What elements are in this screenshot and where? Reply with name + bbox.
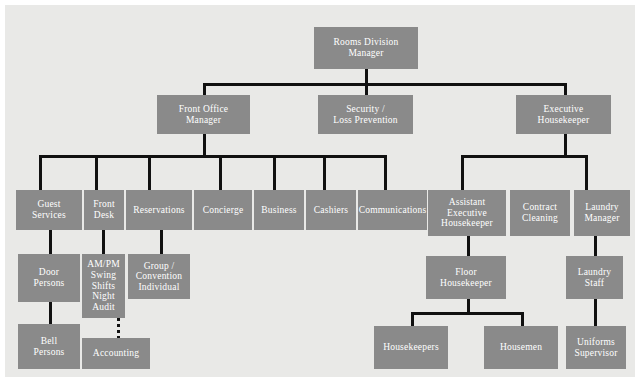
connector-to-business xyxy=(273,155,276,190)
node-business[interactable]: Business xyxy=(254,190,304,230)
node-label-line: Individual xyxy=(136,282,182,293)
node-laundry-staff[interactable]: Laundry Staff xyxy=(566,256,623,299)
node-label-line: AM/PM xyxy=(87,259,120,270)
connector-to-reservations xyxy=(148,155,151,190)
node-label-line: Night xyxy=(87,291,120,302)
connector-floor-hk-bus xyxy=(411,312,524,315)
node-rooms-division-manager[interactable]: Rooms Division Manager xyxy=(314,27,418,69)
node-contract-cleaning[interactable]: Contract Cleaning xyxy=(510,190,570,236)
connector-reservations-down xyxy=(160,230,163,254)
node-label-line: Housekeeper xyxy=(440,278,492,289)
connector-asst-exec-hk-down xyxy=(467,236,470,256)
node-label-line: Audit xyxy=(87,302,120,313)
node-label-line: Guest xyxy=(32,199,66,210)
node-label-line: Convention xyxy=(136,271,182,282)
connector-to-housemen xyxy=(521,312,524,326)
node-label-line: Supervisor xyxy=(574,348,617,359)
node-label-line: Swing xyxy=(87,270,120,281)
node-label-line: Loss Prevention xyxy=(333,115,397,126)
connector-exec-hk-bus xyxy=(461,155,588,158)
node-label-line: Housekeepers xyxy=(383,342,439,353)
node-label-line: Contract xyxy=(522,202,558,213)
connector-fom-down xyxy=(203,133,206,157)
node-label-line: Rooms Division xyxy=(334,37,399,48)
node-label-line: Concierge xyxy=(203,205,244,216)
node-label-line: Cashiers xyxy=(314,205,348,216)
node-label-line: Assistant xyxy=(441,197,493,208)
node-am-pm-swing-shifts-night-audit[interactable]: AM/PM Swing Shifts Night Audit xyxy=(82,254,125,318)
node-bell-persons[interactable]: Bell Persons xyxy=(18,324,80,369)
node-label-line: Executive xyxy=(538,104,590,115)
connector-guest-services-down xyxy=(49,230,52,254)
connector-laundry-staff-down xyxy=(594,299,597,326)
node-label-line: Manager xyxy=(584,213,619,224)
node-executive-housekeeper[interactable]: Executive Housekeeper xyxy=(516,95,611,134)
node-label-line: Uniforms xyxy=(574,337,617,348)
node-label-line: Business xyxy=(261,205,296,216)
node-label-line: Communications xyxy=(359,205,427,216)
node-label-line: Shifts xyxy=(87,281,120,292)
node-label-line: Laundry xyxy=(584,202,619,213)
connector-to-front-desk xyxy=(95,155,98,190)
node-cashiers[interactable]: Cashiers xyxy=(306,190,356,230)
node-label-line: Executive xyxy=(441,208,493,219)
node-guest-services[interactable]: Guest Services xyxy=(16,190,82,230)
connector-exec-hk-down xyxy=(564,133,567,157)
connector-to-laundry-manager xyxy=(585,155,588,190)
node-label-line: Services xyxy=(32,210,66,221)
node-label-line: Cleaning xyxy=(522,213,558,224)
node-label-line: Housemen xyxy=(500,342,542,353)
connector-front-desk-down xyxy=(102,230,105,254)
node-label-line: Front xyxy=(93,199,115,210)
org-chart-panel: Rooms Division Manager Front Office Mana… xyxy=(5,5,635,377)
connector-to-concierge xyxy=(219,155,222,190)
connector-to-guest-services xyxy=(39,155,42,190)
connector-level1-bus xyxy=(203,83,567,86)
connector-to-communications xyxy=(384,155,387,190)
node-front-office-manager[interactable]: Front Office Manager xyxy=(157,95,250,134)
node-label-line: Desk xyxy=(93,210,115,221)
node-assistant-executive-housekeeper[interactable]: Assistant Executive Housekeeper xyxy=(428,190,506,236)
node-label-line: Persons xyxy=(34,347,65,358)
connector-front-office-bus xyxy=(39,155,387,158)
node-floor-housekeeper[interactable]: Floor Housekeeper xyxy=(426,256,506,299)
node-label-line: Persons xyxy=(34,278,65,289)
org-chart-canvas: Rooms Division Manager Front Office Mana… xyxy=(0,0,641,386)
node-label-line: Group / xyxy=(136,261,182,272)
node-reservations[interactable]: Reservations xyxy=(126,190,192,230)
node-label-line: Door xyxy=(34,267,65,278)
node-label-line: Housekeeper xyxy=(538,115,590,126)
node-door-persons[interactable]: Door Persons xyxy=(18,254,80,302)
connector-to-housekeepers xyxy=(411,312,414,326)
node-housemen[interactable]: Housemen xyxy=(484,326,558,369)
connector-night-audit-accounting-dotted xyxy=(117,318,120,338)
node-laundry-manager[interactable]: Laundry Manager xyxy=(574,190,630,236)
connector-to-cashiers xyxy=(323,155,326,190)
node-label-line: Housekeeper xyxy=(441,218,493,229)
node-communications[interactable]: Communications xyxy=(358,190,427,230)
node-label-line: Security / xyxy=(333,104,397,115)
node-front-desk[interactable]: Front Desk xyxy=(84,190,124,230)
node-label-line: Manager xyxy=(334,48,399,59)
node-label-line: Laundry xyxy=(578,267,612,278)
node-concierge[interactable]: Concierge xyxy=(194,190,252,230)
node-group-convention-individual[interactable]: Group / Convention Individual xyxy=(128,254,190,299)
connector-laundry-manager-down xyxy=(594,236,597,256)
node-label-line: Staff xyxy=(578,278,612,289)
node-security-loss-prevention[interactable]: Security / Loss Prevention xyxy=(318,95,413,134)
node-label-line: Front Office xyxy=(179,104,228,115)
connector-to-asst-exec-hk xyxy=(461,155,464,190)
connector-door-persons-down xyxy=(49,302,52,324)
node-label-line: Accounting xyxy=(93,348,139,359)
node-uniforms-supervisor[interactable]: Uniforms Supervisor xyxy=(566,326,626,369)
node-label-line: Bell xyxy=(34,336,65,347)
node-label-line: Manager xyxy=(179,115,228,126)
node-housekeepers[interactable]: Housekeepers xyxy=(374,326,448,369)
node-label-line: Floor xyxy=(440,267,492,278)
node-accounting[interactable]: Accounting xyxy=(82,338,150,369)
node-label-line: Reservations xyxy=(133,205,184,216)
